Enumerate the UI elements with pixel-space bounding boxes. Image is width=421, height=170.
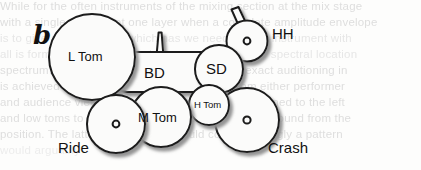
high-tom-head <box>189 85 229 125</box>
high-tom <box>189 85 229 125</box>
figure-panel: While for the often instruments of the m… <box>0 0 421 170</box>
ride-cymbal <box>87 95 145 153</box>
hi-hat-hole-icon <box>244 38 251 45</box>
drum-kit-diagram <box>0 0 421 170</box>
low-tom <box>49 14 135 100</box>
ride-hole-icon <box>113 121 120 128</box>
bass-drum-beater-icon <box>157 32 163 53</box>
low-tom-head <box>49 14 135 100</box>
panel-letter-b: b <box>33 20 51 50</box>
crash-hole-icon <box>243 116 250 123</box>
